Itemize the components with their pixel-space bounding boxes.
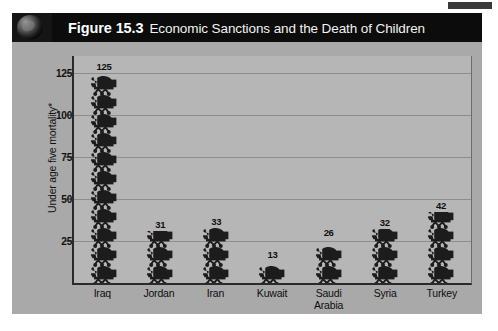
bar-column[interactable]: 32: [357, 56, 413, 283]
bar: [201, 228, 231, 283]
baby-stroller-icon: [257, 264, 287, 283]
y-tick-mark: [65, 156, 72, 157]
scan-artifact-bar: [448, 2, 492, 9]
y-tick-mark: [65, 198, 72, 199]
figure-header: Figure 15.3 Economic Sanctions and the D…: [12, 13, 482, 42]
bar: [257, 261, 287, 283]
bar-value-label: 31: [155, 219, 165, 230]
bar-column[interactable]: 33: [188, 56, 244, 283]
figure-caption: Economic Sanctions and the Death of Chil…: [149, 21, 425, 36]
x-axis-labels: IraqJordanIranKuwaitSaudiArabiaSyriaTurk…: [72, 287, 472, 311]
bar-column[interactable]: 26: [301, 56, 357, 283]
y-tick-mark: [65, 240, 72, 241]
x-axis-label: SaudiArabia: [300, 287, 357, 311]
y-tick-mark: [65, 114, 72, 115]
bar-value-label: 32: [380, 217, 390, 228]
figure-number: Figure 15.3: [68, 20, 143, 36]
x-axis-label: Iran: [187, 287, 244, 311]
bar: [89, 73, 119, 283]
plot-area: 125 31: [72, 56, 472, 285]
bar: [370, 229, 400, 283]
bar-column[interactable]: 125: [76, 56, 132, 283]
figure-page: Figure 15.3 Economic Sanctions and the D…: [0, 0, 498, 331]
baby-stroller-icon: [89, 264, 119, 283]
bar: [145, 231, 175, 283]
baby-stroller-icon: [370, 264, 400, 283]
bar-column[interactable]: 13: [244, 56, 300, 283]
y-axis: Under age five mortality* 255075100125: [20, 42, 72, 314]
bar-value-label: 125: [97, 61, 112, 72]
bar-value-label: 33: [211, 216, 221, 227]
bar-series: 125 31: [74, 56, 471, 283]
bar-column[interactable]: 31: [132, 56, 188, 283]
baby-stroller-icon: [314, 264, 344, 283]
baby-stroller-icon: [89, 264, 119, 283]
x-axis-label: Iraq: [74, 287, 131, 311]
bar-value-label: 42: [436, 200, 446, 211]
bar: [314, 239, 344, 283]
x-axis-label: Turkey: [413, 287, 470, 311]
globe-icon: [12, 13, 52, 42]
x-axis-label: Kuwait: [244, 287, 301, 311]
baby-stroller-icon: [426, 264, 456, 283]
bar-value-label: 13: [268, 249, 278, 260]
x-axis-label: Syria: [357, 287, 414, 311]
baby-stroller-icon: [201, 264, 231, 283]
baby-stroller-icon: [257, 264, 287, 283]
x-axis-label: Jordan: [131, 287, 188, 311]
bar-value-label: 26: [324, 227, 334, 238]
y-tick-mark: [65, 72, 72, 73]
baby-stroller-icon: [145, 264, 175, 283]
chart-panel: Under age five mortality* 255075100125: [12, 42, 482, 314]
baby-stroller-icon: [426, 264, 456, 283]
figure-title: Figure 15.3 Economic Sanctions and the D…: [52, 20, 425, 36]
baby-stroller-icon: [314, 264, 344, 283]
baby-stroller-icon: [201, 264, 231, 283]
bar: [426, 212, 456, 283]
baby-stroller-icon: [370, 264, 400, 283]
baby-stroller-icon: [145, 264, 175, 283]
bar-column[interactable]: 42: [413, 56, 469, 283]
